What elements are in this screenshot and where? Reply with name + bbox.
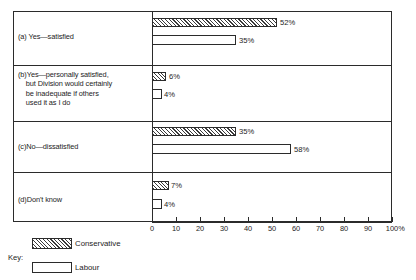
bar-conservative-a xyxy=(152,18,277,27)
x-tick-50 xyxy=(272,217,273,222)
bar-labour-c xyxy=(152,144,291,154)
x-tick-label-90: 90 xyxy=(364,224,372,233)
bar-value-conservative-c: 35% xyxy=(239,127,254,136)
category-label-c: (c)No—dissatisfied xyxy=(18,142,150,151)
x-tick-90 xyxy=(368,217,369,222)
x-tick-10 xyxy=(176,217,177,222)
bar-value-conservative-d: 7% xyxy=(171,181,182,190)
legend-swatch-conservative xyxy=(32,238,72,249)
x-tick-label-100: 100% xyxy=(386,224,405,233)
x-tick-label-30: 30 xyxy=(220,224,228,233)
legend-swatch-labour xyxy=(32,262,72,273)
bar-value-labour-b: 4% xyxy=(164,90,175,99)
x-tick-20 xyxy=(200,217,201,222)
x-tick-label-10: 10 xyxy=(172,224,180,233)
legend-title: Key: xyxy=(8,253,23,262)
x-tick-label-50: 50 xyxy=(268,224,276,233)
bar-conservative-b xyxy=(152,72,166,81)
x-tick-0 xyxy=(152,217,153,222)
bar-value-labour-a: 35% xyxy=(239,36,254,45)
category-label-b: (b)Yes—personally satisfied, but Divisio… xyxy=(18,70,150,108)
x-tick-label-0: 0 xyxy=(150,224,154,233)
x-axis-line xyxy=(152,222,392,223)
row-divider-c-d xyxy=(13,172,392,173)
category-label-d: (d)Don't know xyxy=(18,195,150,204)
x-tick-40 xyxy=(248,217,249,222)
bar-labour-d xyxy=(152,199,162,209)
x-tick-label-70: 70 xyxy=(316,224,324,233)
bar-value-labour-c: 58% xyxy=(294,145,309,154)
bar-labour-a xyxy=(152,35,236,45)
legend: Key: Conservative Labour xyxy=(6,238,206,278)
x-tick-60 xyxy=(296,217,297,222)
x-tick-label-40: 40 xyxy=(244,224,252,233)
legend-label-labour: Labour xyxy=(75,263,99,272)
category-label-a: (a) Yes—satisfied xyxy=(18,32,150,41)
x-tick-label-60: 60 xyxy=(292,224,300,233)
row-divider-a-b xyxy=(13,65,392,66)
bar-value-conservative-a: 52% xyxy=(280,18,295,27)
row-divider-b-c xyxy=(13,121,392,122)
x-tick-80 xyxy=(344,217,345,222)
bar-conservative-c xyxy=(152,127,236,136)
x-tick-30 xyxy=(224,217,225,222)
bar-labour-b xyxy=(152,89,162,99)
x-tick-label-80: 80 xyxy=(340,224,348,233)
bar-value-labour-d: 4% xyxy=(164,200,175,209)
x-tick-label-20: 20 xyxy=(196,224,204,233)
x-tick-70 xyxy=(320,217,321,222)
legend-label-conservative: Conservative xyxy=(75,239,121,248)
bar-conservative-d xyxy=(152,181,169,190)
chart-container: (a) Yes—satisfied (b)Yes—personally sati… xyxy=(0,0,416,280)
x-tick-100 xyxy=(392,217,393,222)
bar-value-conservative-b: 6% xyxy=(169,72,180,81)
